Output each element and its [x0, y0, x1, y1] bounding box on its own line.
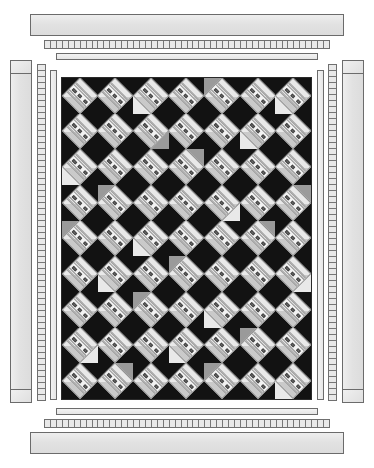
corner-square-bottom-left[interactable]: [10, 389, 32, 403]
bar-pip: [148, 236, 154, 242]
quilt-block[interactable]: [169, 292, 205, 328]
quilt-block[interactable]: [98, 363, 134, 399]
bar-pip: [83, 99, 89, 105]
quilt-block[interactable]: [240, 328, 276, 364]
quilt-block[interactable]: [240, 221, 276, 257]
quilt-block[interactable]: [240, 363, 276, 399]
quilt-block[interactable]: [169, 256, 205, 292]
quilt-block[interactable]: [98, 149, 134, 185]
quilt-block[interactable]: [98, 185, 134, 221]
quilt-block[interactable]: [275, 292, 311, 328]
corner-square-top-right[interactable]: [342, 60, 364, 74]
quilt-block[interactable]: [169, 328, 205, 364]
bar-pip: [118, 313, 124, 319]
outer-border-top[interactable]: [30, 14, 344, 36]
quilt-block[interactable]: [275, 78, 311, 114]
outer-border-left[interactable]: [10, 60, 32, 403]
quilt-block[interactable]: [275, 363, 311, 399]
quilt-block[interactable]: [62, 78, 98, 114]
bar-pip: [118, 277, 124, 283]
quilt-block[interactable]: [62, 292, 98, 328]
quilt-block[interactable]: [204, 328, 240, 364]
quilt-block[interactable]: [169, 114, 205, 150]
bar-pip: [118, 206, 124, 212]
quilt-block[interactable]: [62, 328, 98, 364]
quilt-block[interactable]: [133, 114, 169, 150]
quilt-block[interactable]: [133, 256, 169, 292]
bar-pip: [225, 206, 231, 212]
quilt-block[interactable]: [133, 292, 169, 328]
quilt-center[interactable]: [61, 77, 312, 400]
quilt-block[interactable]: [98, 292, 134, 328]
bar-pip: [249, 337, 255, 343]
bar-pip: [107, 87, 113, 93]
pieced-border-left[interactable]: [37, 64, 46, 401]
quilt-block[interactable]: [204, 149, 240, 185]
quilt-block[interactable]: [62, 221, 98, 257]
quilt-block[interactable]: [204, 292, 240, 328]
quilt-block[interactable]: [204, 78, 240, 114]
quilt-block[interactable]: [275, 221, 311, 257]
quilt-block[interactable]: [240, 114, 276, 150]
quilt-block[interactable]: [133, 363, 169, 399]
bar-pip: [178, 266, 184, 272]
quilt-block[interactable]: [169, 363, 205, 399]
inner-border-top[interactable]: [56, 53, 318, 60]
quilt-block[interactable]: [133, 149, 169, 185]
inner-border-left[interactable]: [50, 70, 57, 400]
bar-pip: [148, 164, 154, 170]
quilt-block[interactable]: [204, 221, 240, 257]
quilt-block[interactable]: [204, 114, 240, 150]
quilt-block[interactable]: [204, 256, 240, 292]
quilt-block[interactable]: [204, 185, 240, 221]
quilt-block[interactable]: [275, 328, 311, 364]
quilt-block[interactable]: [133, 185, 169, 221]
bar-pip: [290, 236, 296, 242]
quilt-block[interactable]: [133, 78, 169, 114]
bar-pip: [260, 241, 266, 247]
bar-pip: [178, 194, 184, 200]
quilt-block[interactable]: [204, 363, 240, 399]
pieced-border-bottom[interactable]: [44, 419, 330, 428]
quilt-block[interactable]: [133, 328, 169, 364]
quilt-block[interactable]: [275, 114, 311, 150]
bar-pip: [249, 266, 255, 272]
quilt-block[interactable]: [169, 78, 205, 114]
quilt-block[interactable]: [275, 256, 311, 292]
quilt-block[interactable]: [240, 292, 276, 328]
quilt-block[interactable]: [62, 256, 98, 292]
outer-border-right[interactable]: [342, 60, 364, 403]
bar-pip: [249, 123, 255, 129]
corner-square-top-left[interactable]: [10, 60, 32, 74]
quilt-block[interactable]: [240, 78, 276, 114]
bar-pip: [214, 194, 220, 200]
quilt-block[interactable]: [169, 185, 205, 221]
quilt-block[interactable]: [240, 149, 276, 185]
quilt-block[interactable]: [275, 185, 311, 221]
quilt-block[interactable]: [240, 185, 276, 221]
quilt-block[interactable]: [98, 256, 134, 292]
quilt-block[interactable]: [275, 149, 311, 185]
quilt-block[interactable]: [98, 114, 134, 150]
quilt-block[interactable]: [62, 114, 98, 150]
bar-pip: [214, 266, 220, 272]
inner-border-right[interactable]: [317, 70, 324, 400]
quilt-block[interactable]: [98, 78, 134, 114]
quilt-block[interactable]: [98, 221, 134, 257]
bar-pip: [113, 200, 119, 206]
pieced-border-top[interactable]: [44, 40, 330, 49]
bar-pip: [189, 313, 195, 319]
quilt-block[interactable]: [98, 328, 134, 364]
bar-pip: [296, 277, 302, 283]
quilt-block[interactable]: [62, 363, 98, 399]
pieced-border-right[interactable]: [328, 64, 337, 401]
quilt-block[interactable]: [133, 221, 169, 257]
inner-border-bottom[interactable]: [56, 408, 318, 415]
quilt-block[interactable]: [240, 256, 276, 292]
corner-square-bottom-right[interactable]: [342, 389, 364, 403]
quilt-block[interactable]: [169, 149, 205, 185]
quilt-block[interactable]: [62, 185, 98, 221]
quilt-block[interactable]: [169, 221, 205, 257]
quilt-block[interactable]: [62, 149, 98, 185]
outer-border-bottom[interactable]: [30, 432, 344, 454]
